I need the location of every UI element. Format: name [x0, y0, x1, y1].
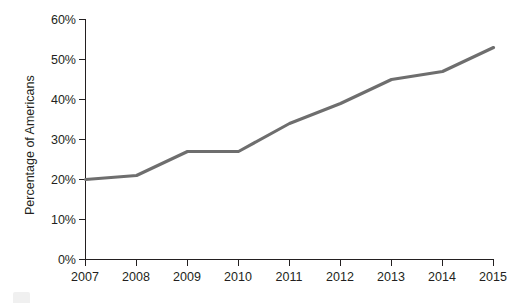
y-tick-label: 20% — [51, 173, 76, 187]
y-tick-label: 10% — [51, 213, 76, 227]
x-tick-label: 2013 — [377, 270, 405, 284]
x-axis-tick-labels: 2007 2008 2009 2010 2011 2012 2013 2014 … — [71, 270, 507, 284]
x-tick-label: 2008 — [122, 270, 150, 284]
line-chart-figure: Percentage of Americans 60% 50% 40% 30% … — [0, 0, 526, 307]
x-axis — [86, 260, 494, 267]
x-tick-label: 2009 — [173, 270, 201, 284]
page-corner-artifact — [13, 292, 30, 303]
x-tick-label: 2007 — [71, 270, 99, 284]
x-tick-label: 2010 — [224, 270, 252, 284]
x-tick-label: 2011 — [276, 270, 303, 284]
y-axis-title-text: Percentage of Americans — [23, 75, 37, 215]
data-series-line — [86, 48, 494, 180]
y-tick-label: 30% — [51, 133, 76, 147]
y-axis-tick-labels: 60% 50% 40% 30% 20% 10% 0% — [51, 13, 76, 267]
y-tick-label: 50% — [51, 53, 76, 67]
y-tick-label: 0% — [58, 253, 76, 267]
y-axis — [79, 19, 86, 260]
y-axis-title: Percentage of Americans — [23, 75, 37, 215]
x-tick-label: 2014 — [428, 270, 456, 284]
x-tick-label: 2015 — [479, 270, 507, 284]
x-tick-label: 2012 — [326, 270, 354, 284]
y-tick-label: 60% — [51, 13, 76, 27]
y-tick-label: 40% — [51, 93, 76, 107]
chart-canvas: Percentage of Americans 60% 50% 40% 30% … — [0, 0, 526, 307]
